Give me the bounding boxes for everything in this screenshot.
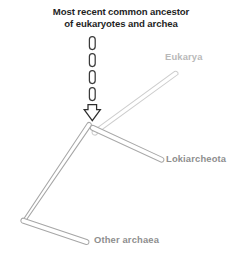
arrow-dash-1 <box>89 37 95 50</box>
arrow-head-icon <box>84 105 100 121</box>
arrow-dash-2 <box>89 54 95 67</box>
branch-eukarya-stroke <box>92 71 178 135</box>
arrow-dash-3 <box>89 71 95 84</box>
phylogenetic-tree-figure: Most recent common ancestor of eukaryote… <box>0 0 242 257</box>
taxon-label-eukarya: Eukarya <box>165 51 203 62</box>
page-title: Most recent common ancestor of eukaryote… <box>0 6 242 29</box>
branch-eukarya <box>92 71 178 135</box>
taxon-label-lokiarcheota: Lokiarcheota <box>166 153 226 164</box>
branch-lokiarcheota-stroke <box>90 125 164 162</box>
branch-other-archaea-stroke <box>21 218 89 244</box>
ancestor-pointer-arrow <box>84 37 100 121</box>
branch-archaea-stem <box>23 122 91 220</box>
branch-lokiarcheota <box>90 125 164 162</box>
branch-other-archaea <box>21 218 89 244</box>
tree-diagram-canvas <box>0 0 242 257</box>
branch-archaea-stem-stroke <box>23 122 91 220</box>
taxon-label-other-archaea: Other archaea <box>94 234 159 245</box>
arrow-dash-4 <box>89 88 95 101</box>
